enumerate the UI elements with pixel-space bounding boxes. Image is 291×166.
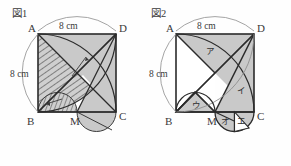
- figure-1-vertex-c: C: [119, 110, 126, 122]
- figure-1-dim-top: 8 cm: [59, 21, 78, 31]
- figure-1-midpoint-m: M: [70, 115, 80, 127]
- figure-2-region-label-u: ウ: [192, 100, 201, 110]
- figure-2: 図2: [145, 0, 291, 166]
- figure-1-lower-semicircle: [77, 112, 116, 132]
- figure-2-vertex-d: D: [257, 22, 265, 34]
- figure-sheet: 図1: [0, 0, 291, 166]
- figure-2-vertex-a: A: [166, 22, 174, 34]
- figure-1-dim-left: 8 cm: [10, 69, 29, 79]
- figure-2-region-label-o: オ: [221, 116, 230, 126]
- figure-1-vertex-d: D: [119, 22, 127, 34]
- figure-2-svg: 図2: [145, 0, 291, 166]
- figure-1-title: 図1: [12, 8, 27, 19]
- figure-2-vertex-b: B: [165, 115, 172, 127]
- figure-2-vertex-c: C: [257, 110, 264, 122]
- figure-2-region-label-a: ア: [206, 46, 215, 56]
- figure-1-svg: 図1: [0, 0, 146, 166]
- figure-1-vertex-b: B: [27, 115, 34, 127]
- figure-2-dim-top: 8 cm: [197, 21, 216, 31]
- figure-2-dim-left: 8 cm: [149, 69, 168, 79]
- figure-2-region-label-i: イ: [237, 85, 246, 95]
- figure-1-vertex-a: A: [28, 22, 36, 34]
- figure-2-region-label-e: エ: [237, 116, 246, 126]
- figure-1: 図1: [0, 0, 146, 166]
- figure-2-title: 図2: [151, 8, 166, 19]
- figure-2-midpoint-m: M: [207, 115, 217, 127]
